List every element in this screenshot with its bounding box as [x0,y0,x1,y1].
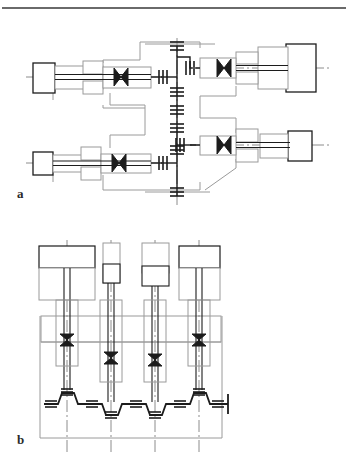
diagram-a-group [26,38,330,205]
technical-drawing-canvas [0,0,348,460]
bevel-gear-pair-symbol [104,352,118,364]
coupling-symbol [86,401,98,407]
spindle-unit-lower-right [190,129,330,162]
diagram-a-vertical-shaft [170,38,184,205]
spindle-unit-lower-left [26,147,165,180]
coupling-symbol [149,412,161,418]
figure-caption-b: b [17,432,24,448]
bevel-gear-pair-symbol [148,354,162,366]
diagram-b-group [39,240,228,452]
spindle-unit-upper-right [192,44,330,92]
coupling-symbol [130,401,142,407]
spindle-unit-upper-left [26,61,165,94]
figure-page: a b [0,0,348,460]
coupling-symbol [45,401,57,407]
diagram-b-motor-blocks [39,243,220,300]
coupling-symbol [174,401,186,407]
figure-caption-a: a [17,186,24,202]
coupling-symbol [105,412,117,418]
